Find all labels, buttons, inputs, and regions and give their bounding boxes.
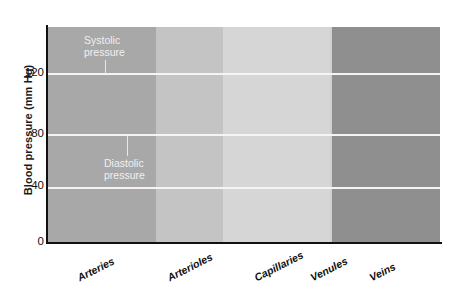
x-label-arteries: Arteries	[75, 255, 116, 284]
gridline-120	[48, 73, 440, 75]
gridline-40	[48, 187, 440, 189]
x-label-arterioles: Arterioles	[165, 250, 214, 283]
x-label-venules: Venules	[308, 255, 349, 284]
annotation-diastolic-leader	[127, 136, 128, 156]
gridlines	[48, 27, 440, 242]
annotation-systolic-line2: pressure	[84, 46, 125, 58]
x-axis-category-labels: ArteriesArteriolesCapillariesVenulesVein…	[0, 242, 451, 294]
annotation-systolic-line1: Systolic	[84, 34, 120, 46]
annotation-systolic: Systolic pressure	[84, 34, 125, 58]
blood-pressure-chart: Blood pressure (mm Hg) 120 80 40 0 Systo…	[0, 0, 451, 294]
y-axis-line	[46, 25, 48, 244]
annotation-diastolic: Diastolic pressure	[104, 157, 145, 181]
gridline-80	[48, 134, 440, 136]
plot-area: Systolic pressure Diastolic pressure	[48, 27, 440, 242]
annotation-diastolic-line1: Diastolic	[104, 157, 144, 169]
y-tick-40: 40	[16, 180, 44, 192]
annotation-systolic-leader	[105, 60, 106, 74]
x-label-capillaries: Capillaries	[252, 249, 305, 284]
annotation-diastolic-line2: pressure	[104, 169, 145, 181]
y-tick-80: 80	[16, 128, 44, 140]
y-tick-120: 120	[16, 67, 44, 79]
x-label-veins: Veins	[367, 260, 397, 283]
